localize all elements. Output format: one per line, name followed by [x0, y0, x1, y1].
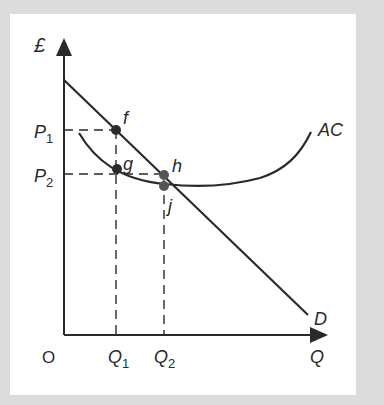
y-axis-label: £	[33, 34, 46, 56]
cost-demand-diagram: £ O Q P1 P2 Q1 Q2 AC D f g h j	[0, 0, 384, 405]
curve-label-ac: AC	[317, 120, 344, 140]
point-f	[111, 125, 121, 135]
price-label-p2: P2	[34, 166, 53, 190]
point-label-h: h	[172, 156, 182, 176]
point-label-g: g	[123, 154, 133, 174]
origin-label: O	[42, 348, 55, 367]
price-label-p1: P1	[34, 122, 53, 146]
point-label-f: f	[123, 108, 130, 128]
point-g	[112, 164, 122, 174]
point-j	[159, 181, 169, 191]
average-cost-curve	[79, 132, 311, 186]
x-axis-label: Q	[310, 347, 324, 367]
demand-curve	[64, 80, 308, 315]
curve-label-d: D	[314, 309, 327, 329]
quantity-label-q1: Q1	[108, 347, 129, 371]
point-label-j: j	[165, 196, 173, 216]
point-h	[159, 170, 169, 180]
quantity-label-q2: Q2	[154, 347, 175, 371]
